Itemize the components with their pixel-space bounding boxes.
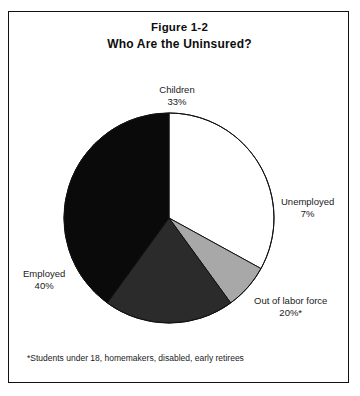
pie-label-employed-value: 40%	[23, 280, 65, 292]
pie-label-children-value: 33%	[159, 96, 194, 108]
pie-label-children-name: Children	[159, 84, 194, 95]
figure-frame: Figure 1-2 Who Are the Uninsured? Childr…	[8, 11, 349, 383]
pie-label-employed: Employed 40%	[23, 268, 65, 291]
pie-label-children: Children 33%	[159, 84, 194, 107]
pie-label-out-of-labor-force-value: 20%*	[254, 307, 327, 319]
pie-label-unemployed: Unemployed 7%	[281, 196, 334, 219]
pie-label-out-of-labor-force: Out of labor force 20%*	[254, 295, 327, 318]
pie-label-unemployed-value: 7%	[281, 208, 334, 220]
pie-label-out-of-labor-force-name: Out of labor force	[254, 295, 327, 306]
figure-footnote: *Students under 18, homemakers, disabled…	[27, 353, 244, 364]
pie-label-unemployed-name: Unemployed	[281, 196, 334, 207]
pie-label-employed-name: Employed	[23, 268, 65, 279]
